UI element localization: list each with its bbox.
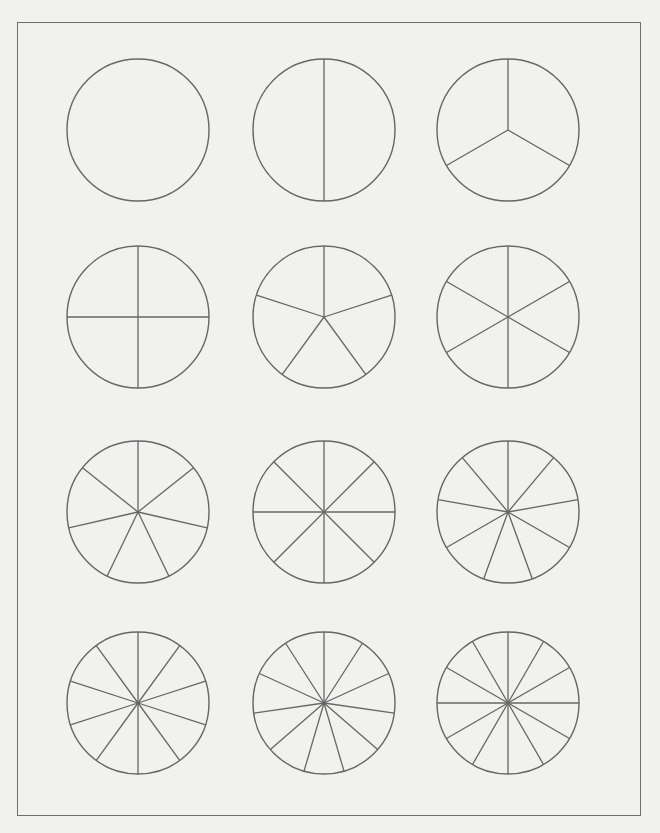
fraction-circle-9 xyxy=(437,441,579,583)
fraction-circles-diagram xyxy=(0,0,660,833)
fraction-circle-11 xyxy=(253,632,395,774)
fraction-circle-10 xyxy=(67,632,209,774)
fraction-circle-6 xyxy=(437,246,579,388)
fraction-circle-12 xyxy=(437,632,579,774)
fraction-circle-8 xyxy=(253,441,395,583)
fraction-circle-5 xyxy=(253,246,395,388)
fraction-circle-4 xyxy=(67,246,209,388)
fraction-circle-7 xyxy=(67,441,209,583)
fraction-circle-1 xyxy=(67,59,209,201)
fraction-circle-3 xyxy=(437,59,579,201)
fraction-circle-2 xyxy=(253,59,395,201)
